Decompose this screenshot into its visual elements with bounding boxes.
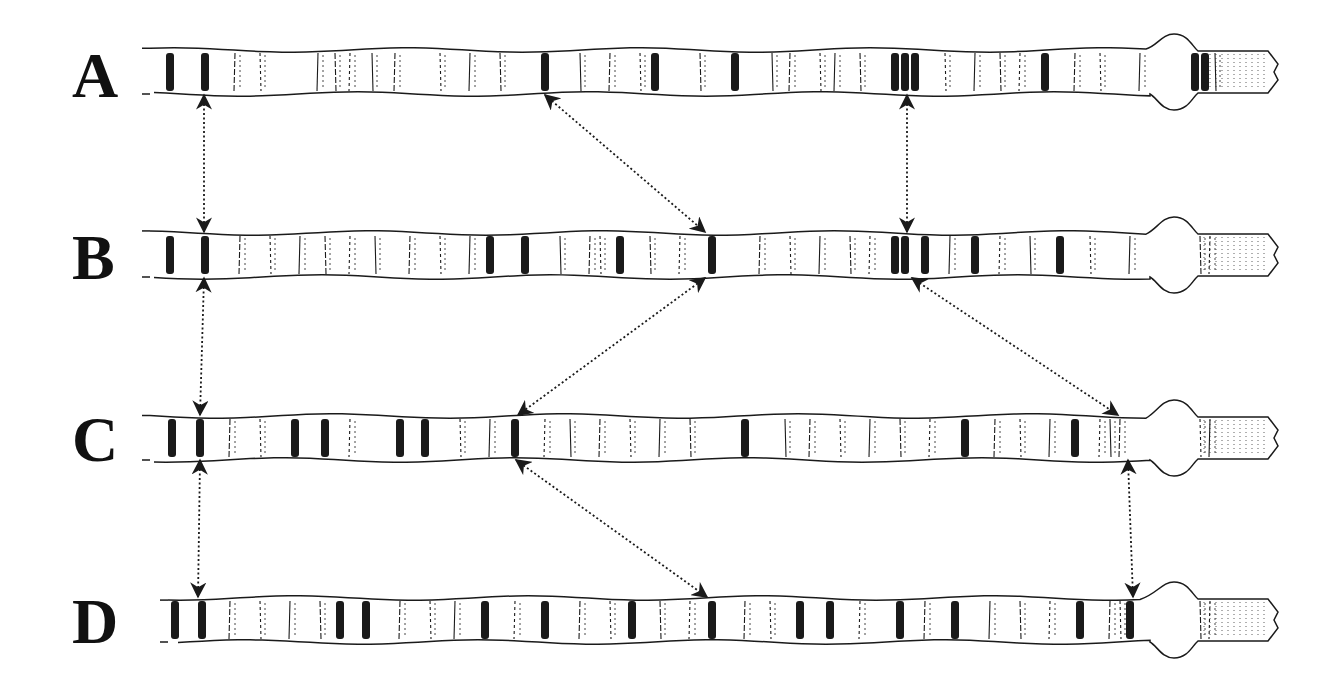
homology-arrow bbox=[200, 278, 204, 415]
chromosome-c bbox=[142, 400, 1278, 476]
dark-band bbox=[396, 419, 404, 457]
dark-band bbox=[651, 53, 659, 91]
dark-band bbox=[1056, 236, 1064, 274]
chromosome-outline bbox=[168, 582, 1278, 658]
dark-band bbox=[826, 601, 834, 639]
dark-band bbox=[796, 601, 804, 639]
dark-band bbox=[421, 419, 429, 457]
dark-band bbox=[166, 53, 174, 91]
dark-band bbox=[486, 236, 494, 274]
dark-band bbox=[1076, 601, 1084, 639]
dark-band bbox=[481, 601, 489, 639]
dark-band bbox=[201, 236, 209, 274]
chromosome-outline bbox=[150, 400, 1278, 476]
dark-band bbox=[616, 236, 624, 274]
dark-band bbox=[891, 53, 899, 91]
dark-band bbox=[708, 236, 716, 274]
dark-band bbox=[362, 601, 370, 639]
dark-band bbox=[291, 419, 299, 457]
dark-band bbox=[1071, 419, 1079, 457]
dark-band bbox=[951, 601, 959, 639]
dark-band bbox=[891, 236, 899, 274]
dark-band bbox=[521, 236, 529, 274]
dark-band bbox=[541, 53, 549, 91]
dark-band bbox=[1191, 53, 1199, 91]
homology-arrow bbox=[1128, 460, 1133, 597]
dark-band bbox=[971, 236, 979, 274]
chromosome-outline bbox=[150, 34, 1278, 110]
dark-band bbox=[1201, 53, 1209, 91]
dark-band bbox=[321, 419, 329, 457]
dark-band bbox=[511, 419, 519, 457]
dark-band bbox=[901, 53, 909, 91]
dark-band bbox=[921, 236, 929, 274]
chromosome-a bbox=[142, 34, 1278, 110]
dark-band bbox=[911, 53, 919, 91]
dark-band bbox=[731, 53, 739, 91]
dark-band bbox=[961, 419, 969, 457]
homology-arrow bbox=[545, 95, 705, 232]
dark-band bbox=[171, 601, 179, 639]
dark-band bbox=[168, 419, 176, 457]
chromosome-b bbox=[142, 217, 1278, 293]
chromosome-group bbox=[142, 34, 1278, 658]
dark-band bbox=[628, 601, 636, 639]
dark-band bbox=[901, 236, 909, 274]
homology-arrow bbox=[518, 278, 705, 415]
dark-band bbox=[741, 419, 749, 457]
dark-band bbox=[166, 236, 174, 274]
dark-band bbox=[708, 601, 716, 639]
dark-band bbox=[198, 601, 206, 639]
dark-band bbox=[541, 601, 549, 639]
chromosome-diagram bbox=[0, 0, 1344, 687]
dark-band bbox=[196, 419, 204, 457]
homology-arrow bbox=[198, 460, 200, 597]
homology-arrow bbox=[912, 278, 1118, 415]
dark-band bbox=[896, 601, 904, 639]
dark-band bbox=[1126, 601, 1134, 639]
dark-band bbox=[336, 601, 344, 639]
chromosome-d bbox=[160, 582, 1278, 658]
homology-arrow-group bbox=[198, 95, 1133, 597]
dark-band bbox=[201, 53, 209, 91]
homology-arrow bbox=[516, 460, 707, 597]
dark-band bbox=[1041, 53, 1049, 91]
